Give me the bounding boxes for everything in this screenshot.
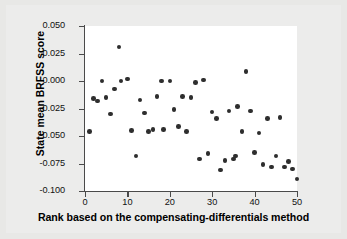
plot-area	[85, 26, 297, 191]
scatter-point	[257, 131, 262, 136]
scatter-point	[265, 116, 270, 121]
x-tick-label: 20	[155, 197, 185, 207]
figure-container: 0.0500.0250.000-0.025-0.050-0.075-0.100 …	[0, 0, 347, 239]
x-tick-label: 50	[282, 197, 312, 207]
y-tick-mark	[79, 191, 84, 192]
y-tick-mark	[79, 109, 84, 110]
scatter-point	[161, 127, 166, 132]
x-tick-label: 30	[197, 197, 227, 207]
scatter-point	[159, 79, 164, 84]
scatter-point	[184, 129, 189, 134]
y-tick-mark	[79, 164, 84, 165]
y-axis-title: State mean BRFSS score	[35, 9, 46, 179]
y-axis-line	[84, 25, 85, 192]
x-axis-line	[84, 191, 298, 192]
scatter-point	[233, 154, 238, 159]
y-tick-mark	[79, 136, 84, 137]
scatter-point	[87, 129, 92, 134]
scatter-point	[180, 94, 185, 99]
scatter-point	[112, 87, 117, 92]
scatter-point	[278, 115, 283, 120]
scatter-point	[282, 165, 287, 170]
x-tick-label: 0	[70, 197, 100, 207]
scatter-point	[193, 80, 198, 85]
y-tick-mark	[79, 54, 84, 55]
x-tick-label: 10	[112, 197, 142, 207]
y-tick-mark	[79, 81, 84, 82]
scatter-point	[129, 128, 134, 133]
scatter-point	[151, 127, 156, 132]
scatter-point	[235, 104, 240, 109]
scatter-point	[206, 151, 211, 156]
scatter-point	[125, 77, 130, 82]
scatter-point	[295, 177, 300, 182]
scatter-point	[252, 150, 257, 155]
x-axis-title: Rank based on the compensating-different…	[6, 211, 341, 223]
scatter-point	[269, 165, 274, 170]
scatter-point	[286, 159, 291, 164]
scatter-point	[142, 111, 147, 116]
chart-card: 0.0500.0250.000-0.025-0.050-0.075-0.100 …	[6, 5, 341, 233]
y-tick-label: -0.100	[19, 185, 65, 195]
scatter-point	[240, 129, 245, 134]
scatter-point	[214, 116, 219, 121]
scatter-point	[176, 124, 181, 129]
scatter-point	[248, 109, 253, 114]
x-tick-label: 40	[240, 197, 270, 207]
scatter-point	[244, 69, 249, 74]
y-tick-mark	[79, 26, 84, 27]
scatter-point	[223, 158, 228, 163]
